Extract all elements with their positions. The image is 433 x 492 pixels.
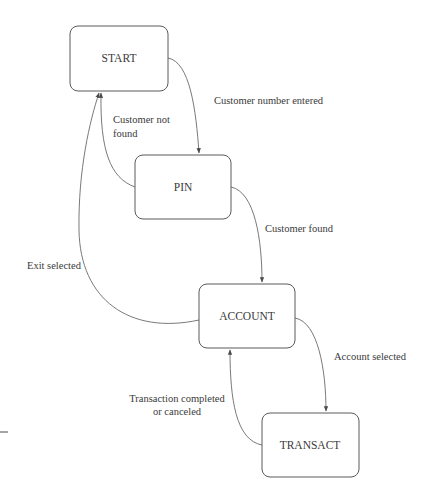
state-pin-label: PIN [174,181,193,193]
state-account-label: ACCOUNT [219,310,275,322]
state-start: START [70,26,168,91]
label-transaction-completed-2: or canceled [153,406,202,417]
edge-account-to-transact [295,318,326,411]
edge-pin-to-account [231,187,262,282]
state-account: ACCOUNT [199,284,295,348]
label-customer-not-found-1: Customer not [113,114,170,125]
edge-start-to-pin [168,58,199,153]
state-transact-label: TRANSACT [280,439,341,451]
edge-pin-to-start [101,93,135,187]
label-transaction-completed-1: Transaction completed [129,393,225,404]
state-transact: TRANSACT [262,413,359,477]
label-account-selected: Account selected [334,351,407,362]
label-exit-selected: Exit selected [27,260,82,271]
state-pin: PIN [135,155,231,219]
label-customer-not-found-2: found [113,128,138,139]
label-customer-number-entered: Customer number entered [214,95,324,106]
label-customer-found: Customer found [265,223,334,234]
state-diagram: START PIN ACCOUNT TRANSACT Customer numb… [0,0,433,492]
edge-transact-to-account [230,350,262,445]
state-start-label: START [102,52,137,64]
